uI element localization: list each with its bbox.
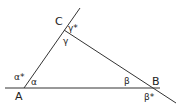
triangle-diagram: A B C α β γ α* β* γ* (0, 0, 178, 106)
line-ac (24, 8, 80, 88)
vertex-c-label: C (55, 15, 63, 28)
vertex-b-label: B (152, 75, 160, 88)
angle-alpha-star: α* (14, 72, 25, 82)
line-cb (64, 30, 176, 103)
angle-alpha: α (31, 77, 37, 87)
angle-beta: β (124, 76, 130, 86)
vertex-a-label: A (15, 90, 23, 103)
angle-beta-star: β* (144, 92, 155, 102)
angle-gamma: γ (63, 36, 69, 46)
angle-gamma-star: γ* (68, 23, 78, 33)
